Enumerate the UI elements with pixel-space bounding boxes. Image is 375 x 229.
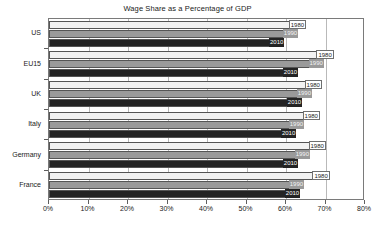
bar-data-label: 1980	[316, 50, 333, 59]
bar-row: 2010	[49, 190, 363, 198]
bar-uk-2010[interactable]	[49, 99, 302, 107]
bar-us-1980[interactable]	[49, 21, 306, 29]
bar-us-1990[interactable]	[49, 30, 298, 38]
bar-group: 198019902010	[49, 112, 363, 139]
bar-data-label: 1980	[305, 80, 322, 89]
category-label-us: US	[31, 29, 41, 36]
value-tick	[167, 200, 168, 204]
bar-italy-1990[interactable]	[49, 121, 304, 129]
bar-data-label: 1990	[295, 150, 310, 159]
bar-data-label: 2010	[283, 68, 298, 77]
bar-row: 1990	[49, 151, 363, 159]
bar-row: 1980	[49, 21, 363, 29]
bar-data-label: 1980	[312, 171, 329, 180]
value-tick	[285, 200, 286, 204]
value-tick	[246, 200, 247, 204]
bar-row: 1990	[49, 181, 363, 189]
bar-france-2010[interactable]	[49, 190, 300, 198]
value-tick-label: 80%	[357, 205, 371, 212]
bar-row: 1980	[49, 172, 363, 180]
category-label-germany: Germany	[12, 151, 41, 158]
category-tick	[44, 139, 48, 140]
bar-data-label: 1980	[289, 20, 306, 29]
bar-group: 198019902010	[49, 81, 363, 108]
value-tick-label: 0%	[43, 205, 53, 212]
plot-area: 1980199020101980199020101980199020101980…	[48, 18, 364, 200]
bar-data-label: 1990	[309, 59, 324, 68]
value-tick	[206, 200, 207, 204]
bar-row: 1990	[49, 30, 363, 38]
bar-row: 1980	[49, 142, 363, 150]
bar-eu15-2010[interactable]	[49, 69, 298, 77]
bar-group: 198019902010	[49, 172, 363, 199]
value-tick-label: 30%	[159, 205, 173, 212]
category-tick	[44, 170, 48, 171]
bar-germany-1990[interactable]	[49, 151, 310, 159]
bar-uk-1990[interactable]	[49, 90, 312, 98]
value-tick-label: 50%	[238, 205, 252, 212]
bar-germany-2010[interactable]	[49, 160, 298, 168]
category-tick	[44, 79, 48, 80]
category-axis: USEU15UKItalyGermanyFrance	[0, 18, 45, 200]
category-tick	[44, 109, 48, 110]
bar-group: 198019902010	[49, 21, 363, 48]
bar-data-label: 1980	[303, 111, 320, 120]
category-label-uk: UK	[31, 90, 41, 97]
bar-eu15-1980[interactable]	[49, 51, 333, 59]
bar-us-2010[interactable]	[49, 39, 284, 47]
bar-uk-1980[interactable]	[49, 81, 322, 89]
bar-data-label: 2010	[281, 129, 296, 138]
bar-row: 2010	[49, 69, 363, 77]
bar-row: 1990	[49, 121, 363, 129]
value-tick	[88, 200, 89, 204]
value-tick-label: 20%	[120, 205, 134, 212]
bar-data-label: 1990	[283, 29, 298, 38]
value-tick	[364, 200, 365, 204]
category-tick	[44, 48, 48, 49]
bar-row: 1980	[49, 51, 363, 59]
bar-row: 1980	[49, 81, 363, 89]
value-tick	[127, 200, 128, 204]
bar-data-label: 2010	[287, 98, 302, 107]
value-tick-label: 40%	[199, 205, 213, 212]
bar-row: 1980	[49, 112, 363, 120]
value-tick	[48, 200, 49, 204]
bar-data-label: 1990	[289, 120, 304, 129]
value-tick	[325, 200, 326, 204]
chart-container: Wage Share as a Percentage of GDP USEU15…	[0, 0, 375, 229]
bar-groups: 1980199020101980199020101980199020101980…	[49, 19, 363, 199]
value-tick-label: 60%	[278, 205, 292, 212]
bar-data-label: 2010	[283, 159, 298, 168]
bar-data-label: 2010	[269, 38, 284, 47]
bar-row: 1990	[49, 60, 363, 68]
chart-title: Wage Share as a Percentage of GDP	[0, 4, 375, 13]
value-tick-label: 10%	[80, 205, 94, 212]
bar-group: 198019902010	[49, 51, 363, 78]
bar-data-label: 1990	[297, 89, 312, 98]
bar-data-label: 1980	[309, 141, 326, 150]
bar-eu15-1990[interactable]	[49, 60, 324, 68]
bar-row: 2010	[49, 99, 363, 107]
bar-italy-2010[interactable]	[49, 130, 296, 138]
bar-italy-1980[interactable]	[49, 112, 320, 120]
bar-row: 1990	[49, 90, 363, 98]
value-tick-label: 70%	[317, 205, 331, 212]
bar-row: 2010	[49, 130, 363, 138]
category-label-italy: Italy	[28, 120, 41, 127]
bar-data-label: 2010	[285, 189, 300, 198]
bar-row: 2010	[49, 39, 363, 47]
category-label-eu15: EU15	[23, 60, 41, 67]
bar-row: 2010	[49, 160, 363, 168]
bar-germany-1980[interactable]	[49, 142, 326, 150]
bar-group: 198019902010	[49, 142, 363, 169]
bar-france-1990[interactable]	[49, 181, 304, 189]
category-label-france: France	[19, 181, 41, 188]
bar-france-1980[interactable]	[49, 172, 329, 180]
bar-data-label: 1990	[289, 180, 304, 189]
value-axis: 0%10%20%30%40%50%60%70%80%	[0, 200, 375, 229]
